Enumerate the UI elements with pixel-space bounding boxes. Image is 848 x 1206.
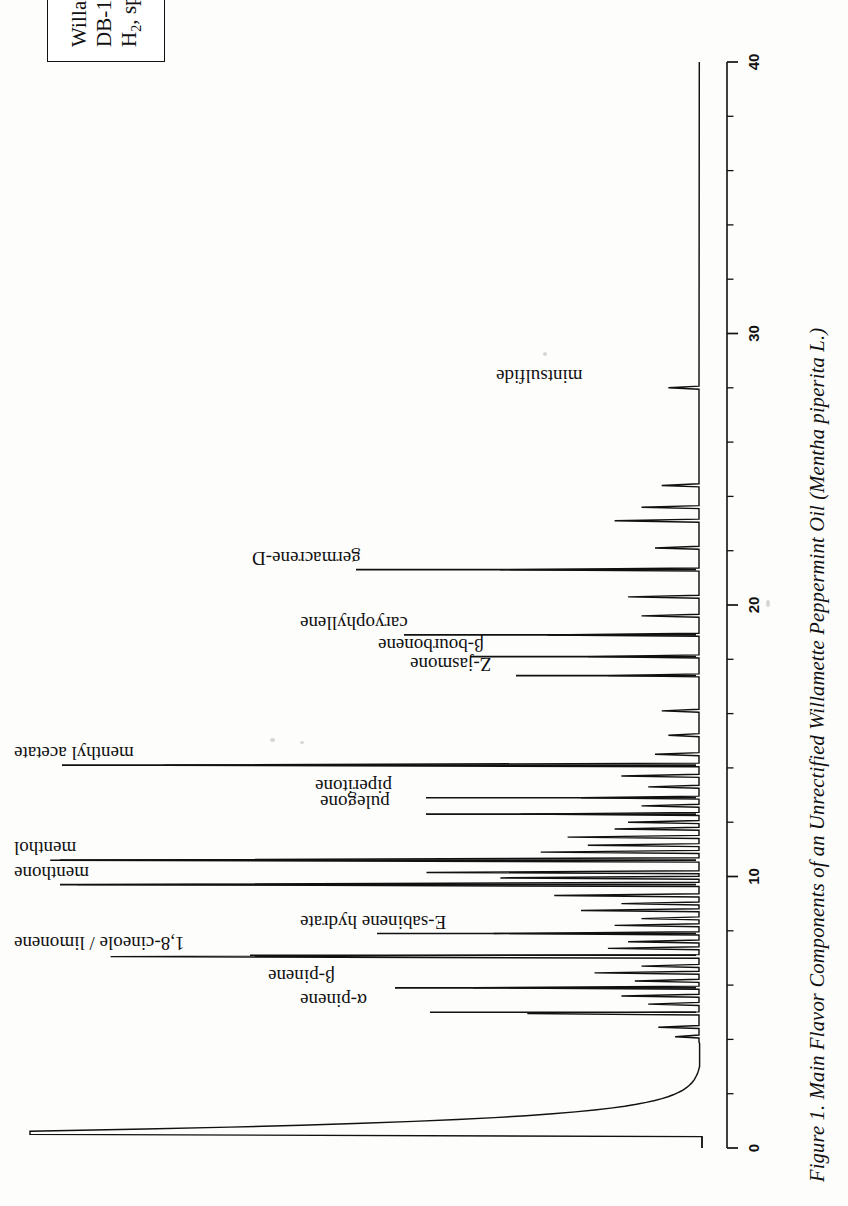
- legend-carrier-sub: 2: [129, 25, 144, 32]
- peak-label: mintsulfide: [496, 367, 583, 386]
- peak-label: β-bourbonene: [378, 636, 484, 655]
- peak-label: menthone: [14, 864, 89, 883]
- x-axis-tick-label: 20: [745, 597, 762, 614]
- scan-speck: [766, 600, 770, 607]
- peak-label: 1,8-cineole / limonene: [14, 934, 184, 953]
- peak-label: menthol: [14, 839, 76, 858]
- legend-carrier-line: H2, split 1:50: [117, 0, 146, 47]
- chromatogram-svg: 010203040: [0, 0, 848, 1206]
- scan-speck: [300, 741, 304, 744]
- peak-label: β-pinene: [268, 967, 335, 986]
- figure-caption: Figure 1. Main Flavor Components of an U…: [806, 328, 829, 1182]
- peak-label: menthyl acetate: [14, 744, 134, 763]
- chromatogram-trace: [30, 62, 702, 1148]
- x-axis-tick-label: 10: [745, 868, 762, 885]
- peak-label: α-pinene: [300, 991, 367, 1010]
- legend-sample-line: Willamette peppermint oil (crude): [67, 0, 92, 47]
- figure-page: Willamette peppermint oil (crude) DB-1 (…: [0, 0, 848, 1206]
- method-legend-inner: Willamette peppermint oil (crude) DB-1 (…: [47, 0, 165, 62]
- chromatogram-plot: 010203040: [0, 0, 848, 1206]
- scan-speck: [270, 738, 275, 742]
- peak-label: Z-jasmone: [410, 655, 491, 674]
- x-axis-tick-label: 30: [745, 325, 762, 342]
- method-legend-box: Willamette peppermint oil (crude) DB-1 (…: [47, 0, 167, 62]
- peak-label: germacrene-D: [252, 549, 361, 568]
- peak-label: caryophyllene: [300, 614, 408, 633]
- x-axis-tick-label: 40: [745, 54, 762, 71]
- x-axis-tick-label: 0: [745, 1144, 762, 1152]
- peak-label: piperitone: [315, 777, 392, 796]
- peak-label: E-sabinene hydrate: [300, 913, 446, 932]
- scan-speck: [543, 352, 547, 356]
- legend-carrier-suffix: , split 1:50: [117, 0, 141, 25]
- legend-column-line: DB-1 (60m x 0.32mm ID, 0.25µm): [92, 0, 117, 47]
- legend-carrier-prefix: H: [117, 32, 141, 47]
